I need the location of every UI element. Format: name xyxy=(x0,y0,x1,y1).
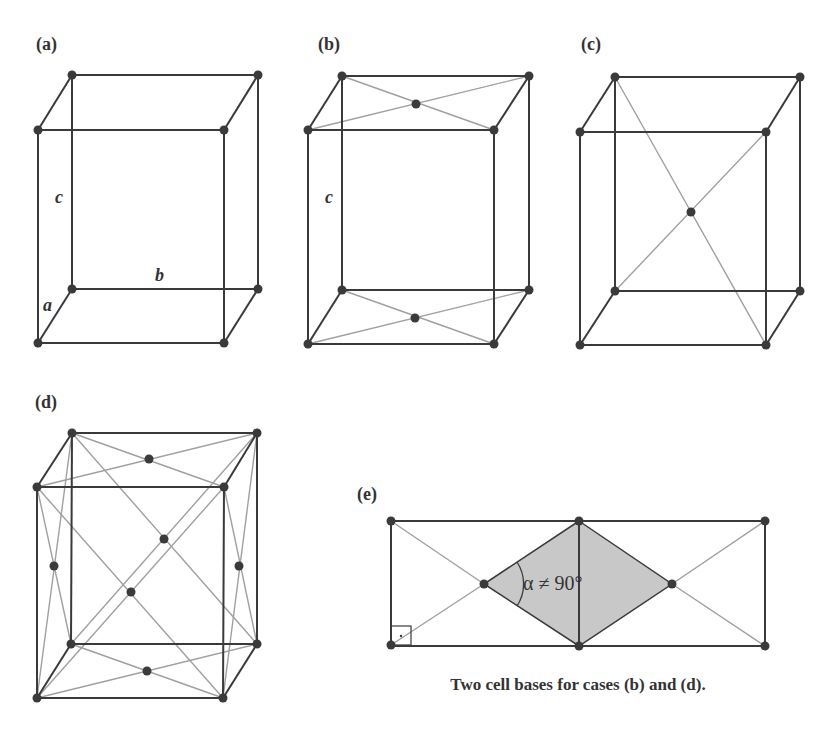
axis-c-label: c xyxy=(55,187,63,207)
panel-a: (a) c b a xyxy=(34,34,263,348)
panel-b: (b) c xyxy=(304,34,534,349)
lattice-points xyxy=(304,72,534,349)
axis-b-label: b xyxy=(155,265,164,285)
lattice-figure: (a) c b a (b) xyxy=(0,0,830,731)
axis-a-label: a xyxy=(43,295,52,315)
panel-e: (e) α ≠ 90° Two cell bases for cases (b)… xyxy=(357,484,770,694)
panel-a-label: (a) xyxy=(36,34,57,55)
cell-edges xyxy=(38,75,258,343)
panel-c: (c) xyxy=(576,34,805,350)
cell-edges xyxy=(37,433,257,698)
panel-e-label: (e) xyxy=(357,484,377,505)
right-angle-dot xyxy=(400,635,402,637)
panel-d-label: (d) xyxy=(35,392,57,413)
panel-d: (d) xyxy=(33,392,262,703)
panel-b-label: (b) xyxy=(318,34,340,55)
axis-c-label: c xyxy=(325,187,333,207)
cell-edges xyxy=(308,76,529,344)
angle-label: α ≠ 90° xyxy=(523,572,582,594)
lattice-points xyxy=(34,71,263,348)
panel-c-label: (c) xyxy=(581,34,601,55)
figure-caption: Two cell bases for cases (b) and (d). xyxy=(450,675,705,694)
lattice-points xyxy=(576,73,805,350)
